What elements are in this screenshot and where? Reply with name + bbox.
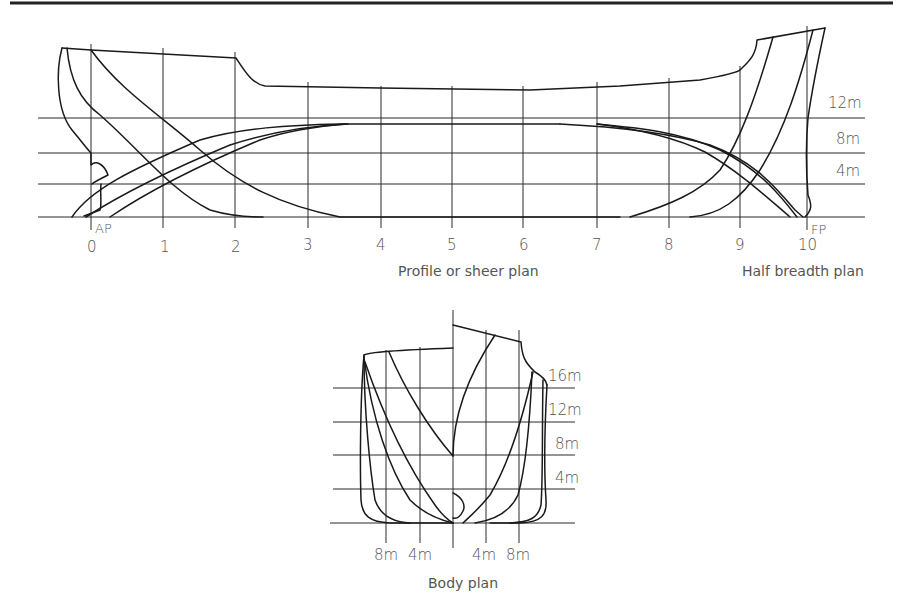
- station-label-5: 5: [447, 238, 457, 253]
- body-waterline-label-16m: 16m: [548, 369, 582, 384]
- station-label-4: 4: [376, 238, 386, 253]
- profile-grid: [38, 26, 865, 230]
- body-waterline-label-8m: 8m: [555, 437, 579, 452]
- buttock-label-4m-fwd: 4m: [472, 548, 496, 563]
- waterline-label-4m: 4m: [836, 164, 860, 179]
- forward-perpendicular-label: FP: [811, 223, 826, 236]
- profile-caption: Profile or sheer plan: [398, 264, 539, 278]
- lines-plan-drawing: [0, 0, 903, 607]
- body-waterline-label-4m: 4m: [555, 471, 579, 486]
- station-label-2: 2: [231, 240, 241, 255]
- station-label-9: 9: [735, 238, 745, 253]
- half-breadth-caption: Half breadth plan: [742, 264, 864, 278]
- station-label-7: 7: [592, 238, 602, 253]
- body-plan-caption: Body plan: [428, 576, 498, 590]
- buttock-label-8m-aft: 8m: [374, 548, 398, 563]
- waterline-label-8m: 8m: [836, 132, 860, 147]
- buttock-label-8m-fwd: 8m: [506, 548, 530, 563]
- profile-hull-lines: [58, 28, 825, 217]
- station-label-3: 3: [303, 238, 313, 253]
- station-label-10: 10: [798, 238, 817, 253]
- body-waterline-label-12m: 12m: [548, 403, 582, 418]
- station-label-1: 1: [160, 240, 170, 255]
- buttock-label-4m-aft: 4m: [408, 548, 432, 563]
- station-label-0: 0: [87, 240, 97, 255]
- aft-perpendicular-label: AP: [95, 222, 112, 235]
- station-label-8: 8: [664, 238, 674, 253]
- waterline-label-12m: 12m: [828, 96, 862, 111]
- station-label-6: 6: [519, 238, 529, 253]
